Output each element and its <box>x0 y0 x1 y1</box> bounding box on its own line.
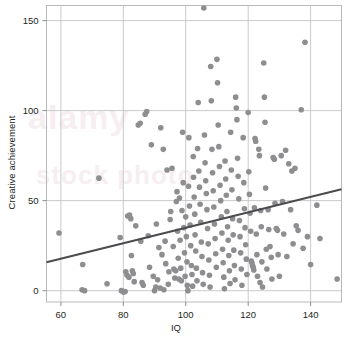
data-point <box>225 224 231 230</box>
data-point <box>168 209 174 215</box>
data-point <box>248 228 254 234</box>
data-point <box>259 259 265 265</box>
data-point <box>278 153 284 159</box>
data-point <box>156 245 162 251</box>
data-point <box>226 253 232 259</box>
data-point <box>298 107 304 113</box>
data-point <box>204 207 210 213</box>
data-point <box>232 277 238 283</box>
data-point <box>182 273 188 279</box>
data-point <box>179 208 185 214</box>
data-point <box>288 207 294 213</box>
data-point <box>155 277 161 283</box>
data-point <box>195 100 201 106</box>
data-point <box>266 227 272 233</box>
data-point <box>255 273 261 279</box>
data-point <box>216 144 222 150</box>
data-point <box>267 244 273 250</box>
data-point <box>242 225 248 231</box>
data-point <box>140 282 146 288</box>
data-point <box>185 288 191 294</box>
data-point <box>277 273 283 279</box>
data-point <box>173 268 179 274</box>
data-point <box>217 183 223 189</box>
data-point <box>210 188 216 194</box>
data-point <box>295 228 301 234</box>
data-point <box>240 135 246 141</box>
data-point <box>195 146 201 152</box>
y-tick-label: 0 <box>5 285 39 296</box>
data-point <box>239 282 245 288</box>
data-point <box>129 253 135 259</box>
data-point <box>167 217 173 223</box>
data-point <box>212 236 218 242</box>
data-point <box>253 231 259 237</box>
data-point <box>317 236 323 242</box>
data-point <box>192 232 198 238</box>
data-point <box>130 271 136 277</box>
data-point <box>217 164 223 170</box>
data-point <box>191 194 197 200</box>
data-point <box>186 183 192 189</box>
x-tick-label: 120 <box>231 309 265 320</box>
data-point <box>207 273 213 279</box>
data-point <box>205 226 211 232</box>
data-point <box>210 170 216 176</box>
data-point <box>131 279 137 285</box>
data-point <box>308 262 314 268</box>
data-point <box>163 261 169 267</box>
data-point <box>177 195 183 201</box>
data-point <box>214 264 220 270</box>
data-point <box>305 234 311 240</box>
data-point <box>190 154 196 160</box>
data-point <box>194 278 200 284</box>
data-point <box>190 283 196 289</box>
data-point <box>213 251 219 257</box>
y-axis-label: Creative achievement <box>6 98 17 228</box>
data-point <box>243 256 249 262</box>
data-point <box>244 272 250 278</box>
data-point <box>256 147 262 153</box>
data-point <box>241 180 247 186</box>
data-point <box>104 281 110 287</box>
data-point <box>187 203 193 209</box>
data-point <box>158 125 164 131</box>
data-point <box>254 252 260 258</box>
y-tick-label: 150 <box>5 15 39 26</box>
data-point <box>245 110 251 116</box>
data-point <box>247 192 253 198</box>
data-point <box>159 252 165 258</box>
data-point <box>203 178 209 184</box>
data-point <box>234 117 240 123</box>
data-point <box>260 284 266 290</box>
data-point <box>200 270 206 276</box>
data-point <box>224 192 230 198</box>
data-point <box>200 282 206 288</box>
data-point <box>154 221 160 227</box>
data-point <box>272 156 278 162</box>
data-point <box>186 135 192 141</box>
data-point <box>128 216 134 222</box>
data-point <box>144 109 150 115</box>
scatter-chart: alamy stock photo 050100150 608010012014… <box>0 0 352 340</box>
data-point <box>215 122 221 128</box>
data-point <box>96 175 102 181</box>
data-point <box>193 248 199 254</box>
data-point <box>290 241 296 247</box>
data-point <box>183 214 189 220</box>
data-point <box>253 138 259 144</box>
data-point <box>211 204 217 210</box>
data-points <box>56 5 340 295</box>
data-point <box>122 289 128 295</box>
data-point <box>174 189 180 195</box>
data-point <box>161 287 167 293</box>
data-point <box>222 158 228 164</box>
data-point <box>150 273 156 279</box>
data-point <box>197 184 203 190</box>
data-point <box>117 235 123 241</box>
data-point <box>262 120 268 126</box>
data-point <box>165 282 171 288</box>
data-point <box>82 288 88 294</box>
data-point <box>56 230 62 236</box>
data-point <box>224 209 230 215</box>
